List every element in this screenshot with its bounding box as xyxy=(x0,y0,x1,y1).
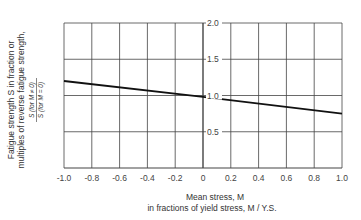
x-tick-label: 0.6 xyxy=(280,173,292,183)
x-tick-label: 0.2 xyxy=(225,173,237,183)
y-tick-labels: 0.51.01.52.0 xyxy=(206,18,222,137)
y-tick-label: 1.0 xyxy=(207,91,219,101)
x-tick-label: -0.4 xyxy=(140,173,155,183)
x-tick-label: 0.8 xyxy=(308,173,320,183)
y-tick-label: 2.0 xyxy=(207,18,219,28)
y-axis-label-line1: Fatigue strength S in fraction or xyxy=(6,41,16,160)
x-tick-label: -1.0 xyxy=(57,173,72,183)
grid-lines xyxy=(64,23,342,168)
x-tick-label: 0 xyxy=(201,173,206,183)
fatigue-chart: 0.51.01.52.0 -1.0-0.8-0.6-0.4-0.200.20.4… xyxy=(0,0,361,220)
y-tick-label: 0.5 xyxy=(207,127,219,137)
x-tick-labels: -1.0-0.8-0.6-0.4-0.200.20.40.60.81.0 xyxy=(57,173,349,183)
y-formula-denominator: S (for M = 0) xyxy=(37,82,45,118)
x-tick-label: 0.4 xyxy=(253,173,265,183)
y-axis-label-line2: multiples of reverse fatigue strength, xyxy=(16,31,26,168)
y-tick-label: 1.5 xyxy=(207,54,219,64)
y-axis-label: Fatigue strength S in fraction or multip… xyxy=(6,31,45,168)
x-tick-label: -0.8 xyxy=(84,173,99,183)
x-axis-label-line2: in fractions of yield stress, M / Y.S. xyxy=(147,203,276,213)
x-tick-label: -0.2 xyxy=(168,173,183,183)
x-tick-label: 1.0 xyxy=(336,173,348,183)
x-tick-label: -0.6 xyxy=(112,173,127,183)
y-formula-numerator: S (for M ≠ 0) xyxy=(28,82,36,118)
x-axis-label-line1: Mean stress, M xyxy=(186,192,244,202)
